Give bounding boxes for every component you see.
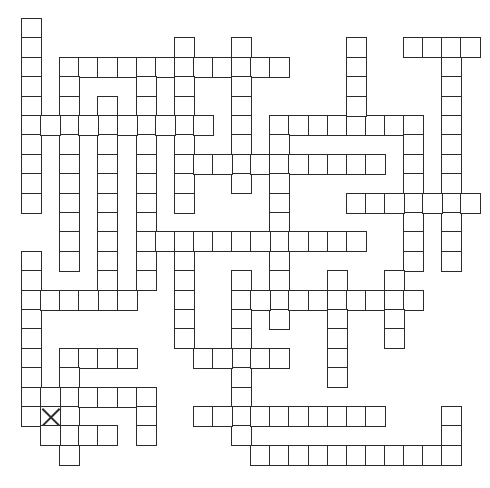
grid-cell[interactable] [403, 212, 424, 233]
grid-cell[interactable] [78, 290, 99, 311]
grid-cell[interactable] [250, 406, 271, 427]
grid-cell[interactable] [97, 154, 118, 175]
grid-cell[interactable] [21, 134, 42, 155]
grid-cell[interactable] [403, 445, 424, 466]
grid-cell[interactable] [269, 154, 290, 175]
grid-cell[interactable] [21, 387, 42, 408]
grid-cell[interactable] [174, 154, 195, 175]
grid-cell[interactable] [327, 406, 348, 427]
grid-cell[interactable] [174, 290, 195, 311]
grid-cell[interactable] [250, 445, 271, 466]
grid-cell[interactable] [136, 134, 157, 155]
grid-cell[interactable] [97, 115, 118, 136]
grid-cell[interactable] [346, 406, 367, 427]
grid-cell[interactable] [174, 270, 195, 291]
grid-cell[interactable] [365, 290, 386, 311]
grid-cell[interactable] [21, 18, 42, 39]
grid-cell[interactable] [231, 37, 252, 58]
grid-cell[interactable] [40, 425, 61, 446]
grid-cell[interactable] [21, 57, 42, 78]
grid-cell[interactable] [346, 76, 367, 97]
grid-cell[interactable] [346, 290, 367, 311]
grid-cell[interactable] [422, 37, 443, 58]
grid-cell[interactable] [78, 387, 99, 408]
grid-cell[interactable] [212, 231, 233, 252]
grid-cell[interactable] [59, 57, 80, 78]
grid-cell[interactable] [384, 270, 405, 291]
grid-cell[interactable] [155, 115, 176, 136]
grid-cell[interactable] [231, 270, 252, 291]
grid-cell[interactable] [212, 154, 233, 175]
grid-cell[interactable] [346, 231, 367, 252]
grid-cell[interactable] [136, 387, 157, 408]
grid-cell[interactable] [212, 406, 233, 427]
grid-cell[interactable] [59, 96, 80, 117]
grid-cell[interactable] [40, 290, 61, 311]
grid-cell[interactable] [136, 270, 157, 291]
grid-cell[interactable] [403, 154, 424, 175]
grid-cell[interactable] [384, 290, 405, 311]
grid-cell[interactable] [21, 115, 42, 136]
grid-cell[interactable] [269, 309, 290, 330]
grid-cell[interactable] [308, 115, 329, 136]
grid-cell[interactable] [346, 57, 367, 78]
x-marked-cell[interactable] [40, 406, 61, 427]
grid-cell[interactable] [327, 348, 348, 369]
grid-cell[interactable] [422, 445, 443, 466]
grid-cell[interactable] [231, 173, 252, 194]
grid-cell[interactable] [40, 115, 61, 136]
grid-cell[interactable] [327, 290, 348, 311]
grid-cell[interactable] [365, 115, 386, 136]
grid-cell[interactable] [174, 173, 195, 194]
grid-cell[interactable] [288, 154, 309, 175]
grid-cell[interactable] [441, 57, 462, 78]
grid-cell[interactable] [365, 154, 386, 175]
grid-cell[interactable] [97, 348, 118, 369]
grid-cell[interactable] [59, 212, 80, 233]
grid-cell[interactable] [384, 445, 405, 466]
grid-cell[interactable] [308, 154, 329, 175]
grid-cell[interactable] [308, 445, 329, 466]
grid-cell[interactable] [269, 212, 290, 233]
grid-cell[interactable] [174, 76, 195, 97]
grid-cell[interactable] [346, 37, 367, 58]
grid-cell[interactable] [327, 154, 348, 175]
grid-cell[interactable] [231, 154, 252, 175]
grid-cell[interactable] [78, 425, 99, 446]
grid-cell[interactable] [441, 445, 462, 466]
grid-cell[interactable] [441, 115, 462, 136]
grid-cell[interactable] [231, 96, 252, 117]
grid-cell[interactable] [59, 76, 80, 97]
grid-cell[interactable] [308, 231, 329, 252]
grid-cell[interactable] [346, 154, 367, 175]
grid-cell[interactable] [174, 193, 195, 214]
grid-cell[interactable] [97, 425, 118, 446]
grid-cell[interactable] [212, 57, 233, 78]
grid-cell[interactable] [441, 154, 462, 175]
grid-cell[interactable] [308, 406, 329, 427]
grid-cell[interactable] [59, 367, 80, 388]
grid-cell[interactable] [327, 309, 348, 330]
grid-cell[interactable] [174, 309, 195, 330]
grid-cell[interactable] [21, 173, 42, 194]
grid-cell[interactable] [288, 445, 309, 466]
grid-cell[interactable] [269, 57, 290, 78]
grid-cell[interactable] [231, 134, 252, 155]
grid-cell[interactable] [403, 37, 424, 58]
grid-cell[interactable] [97, 387, 118, 408]
grid-cell[interactable] [136, 231, 157, 252]
grid-cell[interactable] [117, 115, 138, 136]
grid-cell[interactable] [59, 290, 80, 311]
grid-cell[interactable] [59, 231, 80, 252]
grid-cell[interactable] [384, 115, 405, 136]
grid-cell[interactable] [403, 134, 424, 155]
grid-cell[interactable] [21, 367, 42, 388]
grid-cell[interactable] [231, 57, 252, 78]
grid-cell[interactable] [59, 406, 80, 427]
grid-cell[interactable] [403, 231, 424, 252]
grid-cell[interactable] [97, 251, 118, 272]
grid-cell[interactable] [403, 193, 424, 214]
grid-cell[interactable] [231, 115, 252, 136]
grid-cell[interactable] [403, 251, 424, 272]
grid-cell[interactable] [174, 96, 195, 117]
